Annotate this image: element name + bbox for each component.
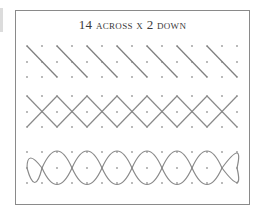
stitch-pattern-diagram [0,0,265,212]
dot-grid [26,45,238,184]
diamond-chain-row [27,96,237,127]
diagonal-stitch-row [27,46,237,77]
